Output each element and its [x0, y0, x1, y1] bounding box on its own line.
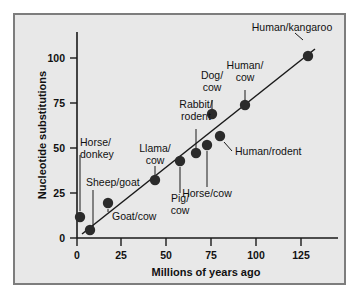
point-llama-cow[interactable] — [150, 175, 160, 185]
point-labels-group: Horse/ donkey Sheep/goat Goat/cow Llama/… — [80, 21, 332, 222]
label-pig-cow-line2: cow — [171, 204, 190, 216]
point-human-rodent[interactable] — [215, 131, 225, 141]
label-rabbit-rodent-line1: Rabbit/ — [179, 98, 212, 110]
label-llama-cow-line1: Llama/ — [139, 142, 171, 154]
y-axis-title: Nucleotide substitutions — [36, 71, 48, 199]
point-human-cow[interactable] — [240, 100, 250, 110]
regression-line — [82, 49, 315, 234]
label-human-cow-line1: Human/ — [227, 59, 264, 71]
x-ticks-group: 0 25 50 75 100 125 — [74, 238, 310, 261]
point-pig-cow[interactable] — [175, 156, 185, 166]
point-human-kangaroo[interactable] — [303, 51, 313, 61]
point-rabbit-rodent[interactable] — [191, 148, 201, 158]
y-tick-label-75: 75 — [53, 97, 65, 109]
label-dog-cow-line2: cow — [203, 81, 222, 93]
x-tick-label-125: 125 — [292, 249, 310, 261]
label-human-cow-line2: cow — [236, 71, 255, 83]
label-horse-donkey-line1: Horse/ — [80, 136, 111, 148]
point-horse-cow[interactable] — [202, 140, 212, 150]
figure-container: 0 25 50 75 100 0 25 50 75 100 125 Millio… — [0, 0, 364, 301]
label-sheep-goat: Sheep/goat — [86, 176, 140, 188]
y-tick-label-100: 100 — [47, 52, 65, 64]
x-tick-label-50: 50 — [160, 249, 172, 261]
x-tick-label-0: 0 — [74, 249, 80, 261]
y-tick-label-0: 0 — [59, 232, 65, 244]
label-dog-cow-line1: Dog/ — [201, 69, 223, 81]
label-human-kangaroo: Human/kangaroo — [252, 21, 333, 33]
y-ticks-group: 0 25 50 75 100 — [47, 52, 77, 244]
point-horse-donkey[interactable] — [75, 212, 85, 222]
x-tick-label-100: 100 — [247, 249, 265, 261]
x-tick-label-75: 75 — [205, 249, 217, 261]
label-llama-cow-line2: cow — [146, 154, 165, 166]
y-tick-label-50: 50 — [53, 142, 65, 154]
label-horse-cow: Horse/cow — [182, 187, 232, 199]
x-axis-title: Millions of years ago — [152, 266, 261, 278]
label-goat-cow: Goat/cow — [112, 210, 157, 222]
x-tick-label-25: 25 — [115, 249, 127, 261]
label-horse-donkey-line2: donkey — [80, 148, 115, 160]
scatter-chart: 0 25 50 75 100 0 25 50 75 100 125 Millio… — [0, 0, 364, 301]
leader-human-rodent — [224, 142, 232, 151]
point-sheep-goat[interactable] — [103, 198, 113, 208]
leader-human-kangaroo — [295, 33, 303, 40]
label-rabbit-rodent-line2: rodent — [181, 110, 211, 122]
y-tick-label-25: 25 — [53, 187, 65, 199]
label-human-rodent: Human/rodent — [235, 145, 302, 157]
point-goat-cow[interactable] — [85, 225, 95, 235]
